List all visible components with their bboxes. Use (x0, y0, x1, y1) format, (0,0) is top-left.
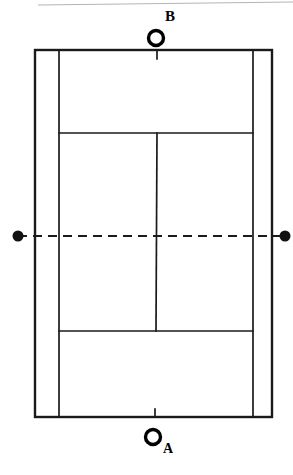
tennis-court-figure: B A (0, 0, 293, 475)
court-svg (0, 0, 293, 475)
center-service-line (156, 133, 157, 331)
player-b-label: B (165, 9, 175, 24)
player-a-label: A (163, 442, 173, 456)
net-post-left (13, 231, 24, 242)
figure-background (0, 0, 293, 475)
net-post-right (280, 231, 291, 242)
